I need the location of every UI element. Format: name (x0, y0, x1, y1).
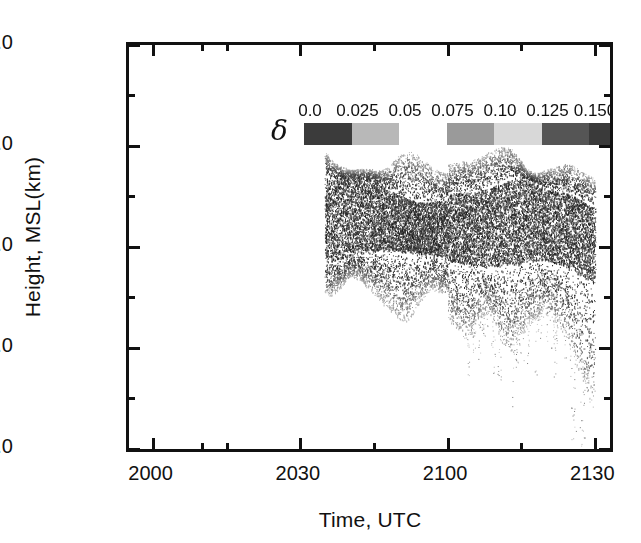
figure-container: Height, MSL(km) Time, UTC 2.03.04.05.06.… (0, 0, 641, 543)
y-tick-label: 5.0 (0, 133, 13, 153)
axis-tick (129, 347, 140, 350)
axis-tick (604, 94, 610, 97)
axis-tick (599, 44, 610, 47)
axis-tick (447, 45, 450, 56)
axis-tick (201, 443, 204, 449)
axis-tick (129, 296, 135, 299)
y-tick-label: 4.0 (0, 234, 13, 254)
x-tick-label: 2100 (400, 462, 490, 485)
axis-tick (599, 448, 610, 451)
axis-tick (520, 45, 523, 51)
axis-tick (604, 397, 610, 400)
axis-tick (129, 94, 135, 97)
x-tick-label: 2000 (106, 462, 196, 485)
axis-tick (226, 443, 229, 449)
axis-tick (129, 448, 140, 451)
axis-tick (373, 45, 376, 51)
scatter-data-canvas (129, 45, 610, 449)
colorbar-tick-label: 0.175 (611, 101, 614, 121)
axis-tick (299, 438, 302, 449)
axis-tick (520, 443, 523, 449)
x-tick-label: 2130 (547, 462, 637, 485)
axis-tick (129, 145, 140, 148)
x-axis-title: Time, UTC (126, 508, 614, 532)
axis-tick (594, 45, 597, 56)
axis-tick (152, 438, 155, 449)
axis-tick (129, 44, 140, 47)
axis-tick (599, 347, 610, 350)
axis-tick (129, 195, 135, 198)
y-tick-label: 6.0 (0, 32, 13, 52)
axis-tick (373, 443, 376, 449)
axis-tick (599, 246, 610, 249)
y-axis-title: Height, MSL(km) (21, 117, 45, 357)
axis-tick (447, 438, 450, 449)
plot-area: δ 0.00.0250.050.0750.100.1250.1500.1750.… (126, 42, 613, 452)
y-tick-label: 3.0 (0, 335, 13, 355)
axis-tick (226, 45, 229, 51)
axis-tick (129, 397, 135, 400)
axis-tick (201, 45, 204, 51)
y-tick-label: 2.0 (0, 436, 13, 456)
axis-tick (594, 438, 597, 449)
axis-tick (599, 145, 610, 148)
axis-tick (129, 246, 140, 249)
axis-tick (604, 296, 610, 299)
axis-tick (299, 45, 302, 56)
axis-tick (604, 195, 610, 198)
axis-tick (152, 45, 155, 56)
x-tick-label: 2030 (253, 462, 343, 485)
